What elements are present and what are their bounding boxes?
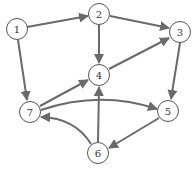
node-label: 6 [95, 148, 101, 159]
node-2: 2 [89, 4, 110, 25]
node-6: 6 [88, 143, 109, 164]
node-1: 1 [7, 19, 28, 40]
node-3: 3 [170, 22, 191, 43]
node-label: 1 [14, 24, 20, 35]
edge-4-3 [109, 38, 169, 69]
node-label: 4 [96, 70, 102, 81]
edge-6-7 [41, 117, 91, 144]
node-label: 3 [177, 27, 183, 38]
edge-5-6 [109, 118, 159, 148]
node-label: 7 [27, 107, 33, 118]
edge-1-7 [18, 40, 27, 100]
edge-6-4 [98, 87, 99, 142]
node-5: 5 [158, 101, 179, 122]
node-label: 5 [165, 106, 171, 117]
node-label: 2 [96, 9, 102, 20]
edge-2-3 [110, 16, 169, 28]
node-4: 4 [89, 65, 110, 86]
node-7: 7 [20, 102, 41, 123]
edge-3-5 [171, 43, 180, 99]
directed-graph: 1 2 3 4 5 6 7 [0, 0, 192, 180]
edge-7-4 [40, 80, 88, 106]
edge-1-2 [27, 16, 88, 27]
